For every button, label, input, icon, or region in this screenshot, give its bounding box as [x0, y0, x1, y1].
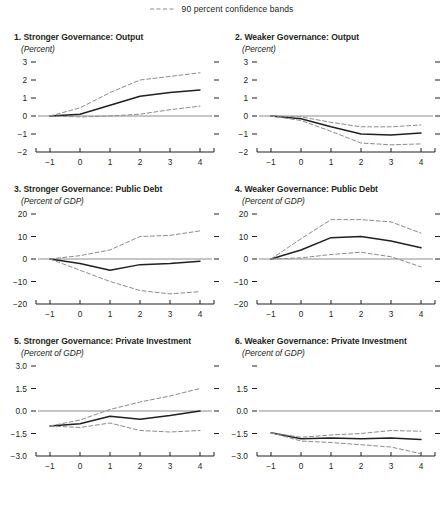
panel-title: 4. Weaker Governance: Public Debt	[235, 184, 378, 194]
y-axis-tick-label: 1	[243, 93, 248, 103]
confidence-band-line	[271, 252, 421, 267]
y-axis-tick-label: 0.0	[236, 406, 248, 416]
central-estimate-line	[50, 411, 200, 426]
x-axis-tick-label: 2	[359, 309, 364, 319]
plot-area: 3210−1−2−101234	[0, 54, 221, 174]
y-axis-tick-label: 10	[18, 232, 28, 242]
x-axis-tick-label: 0	[78, 157, 83, 167]
x-axis-tick-label: 4	[419, 461, 424, 471]
x-axis-tick-label: 4	[419, 309, 424, 319]
y-axis-tick-label: −1	[18, 129, 28, 139]
y-axis-tick-label: 20	[18, 209, 28, 219]
y-axis-tick-label: −10	[234, 277, 248, 287]
x-axis-tick-label: 1	[329, 157, 334, 167]
panel-subtitle: (Percent)	[242, 44, 276, 54]
plot-area: 3.01.50.0−1.5−3.0−101234	[0, 358, 221, 478]
panel-subtitle: (Percent of GDP)	[242, 196, 305, 206]
panel-2: 2. Weaker Governance: Output (Percent) 3…	[221, 26, 443, 178]
panel-subtitle: (Percent of GDP)	[21, 348, 84, 358]
x-axis-tick-label: 4	[419, 157, 424, 167]
panel-title: 5. Stronger Governance: Private Investme…	[14, 336, 191, 346]
x-axis-tick-label: 4	[198, 309, 203, 319]
x-axis-tick-label: 1	[108, 461, 113, 471]
y-axis-tick-label: 0	[243, 111, 248, 121]
panel-subtitle: (Percent of GDP)	[21, 196, 84, 206]
x-axis-tick-label: 0	[299, 461, 304, 471]
confidence-band-line	[50, 389, 200, 427]
panel-subtitle: (Percent)	[21, 44, 55, 54]
legend-label: 90 percent confidence bands	[182, 4, 294, 14]
y-axis-tick-label: 1.5	[15, 384, 27, 394]
panel-grid: 1. Stronger Governance: Output (Percent)…	[0, 26, 443, 496]
x-axis-tick-label: −1	[266, 157, 276, 167]
y-axis-tick-label: −1.5	[232, 429, 249, 439]
x-axis-tick-label: 4	[198, 461, 203, 471]
y-axis-tick-label: −1	[239, 129, 249, 139]
x-axis-tick-label: −1	[45, 461, 55, 471]
x-axis-tick-label: 3	[168, 461, 173, 471]
y-axis-tick-label: 10	[239, 232, 249, 242]
y-axis-tick-label: 1	[22, 93, 27, 103]
panel-1: 1. Stronger Governance: Output (Percent)…	[0, 26, 221, 178]
x-axis-tick-label: 0	[78, 461, 83, 471]
y-axis-tick-label: −20	[234, 299, 248, 309]
panel-title: 1. Stronger Governance: Output	[14, 32, 143, 42]
plot-area: 1.50.0−1.5−3.0−101234	[221, 358, 442, 478]
x-axis-tick-label: 2	[138, 157, 143, 167]
x-axis-tick-label: −1	[266, 461, 276, 471]
x-axis-tick-label: 0	[299, 309, 304, 319]
panel-subtitle: (Percent of GDP)	[242, 348, 305, 358]
x-axis-tick-label: 2	[359, 461, 364, 471]
x-axis-tick-label: −1	[266, 309, 276, 319]
y-axis-tick-label: −2	[239, 147, 249, 157]
x-axis-tick-label: 2	[138, 461, 143, 471]
confidence-band-line	[50, 259, 200, 294]
y-axis-tick-label: 3	[243, 57, 248, 67]
y-axis-tick-label: 0	[22, 111, 27, 121]
legend-dashed-line-icon	[150, 5, 176, 13]
plot-area: 3210−1−2−101234	[221, 54, 442, 174]
x-axis-tick-label: 1	[329, 461, 334, 471]
x-axis-tick-label: 1	[108, 309, 113, 319]
y-axis-tick-label: −1.5	[11, 429, 28, 439]
x-axis-tick-label: 2	[138, 309, 143, 319]
x-axis-tick-label: 3	[389, 309, 394, 319]
y-axis-tick-label: −3.0	[232, 451, 249, 461]
x-axis-tick-label: 1	[108, 157, 113, 167]
y-axis-tick-label: −20	[13, 299, 27, 309]
y-axis-tick-label: 1.5	[236, 384, 248, 394]
plot-area: 20100−10−20−101234	[0, 206, 221, 326]
panel-title: 3. Stronger Governance: Public Debt	[14, 184, 162, 194]
y-axis-tick-label: −2	[18, 147, 28, 157]
central-estimate-line	[50, 90, 200, 116]
y-axis-tick-label: −10	[13, 277, 27, 287]
panel-title: 2. Weaker Governance: Output	[235, 32, 359, 42]
x-axis-tick-label: 3	[389, 157, 394, 167]
y-axis-tick-label: 20	[239, 209, 249, 219]
x-axis-tick-label: 4	[198, 157, 203, 167]
y-axis-tick-label: 3	[22, 57, 27, 67]
y-axis-tick-label: −3.0	[11, 451, 28, 461]
x-axis-tick-label: 3	[389, 461, 394, 471]
confidence-band-line	[50, 73, 200, 116]
x-axis-tick-label: 3	[168, 157, 173, 167]
y-axis-tick-label: 2	[22, 75, 27, 85]
panel-3: 3. Stronger Governance: Public Debt (Per…	[0, 178, 221, 330]
x-axis-tick-label: 1	[329, 309, 334, 319]
x-axis-tick-label: −1	[45, 157, 55, 167]
x-axis-tick-label: −1	[45, 309, 55, 319]
central-estimate-line	[271, 116, 421, 135]
y-axis-tick-label: 2	[243, 75, 248, 85]
panel-6: 6. Weaker Governance: Private Investment…	[221, 330, 443, 496]
confidence-band-line	[50, 231, 200, 259]
y-axis-tick-label: 0.0	[15, 406, 27, 416]
central-estimate-line	[50, 259, 200, 270]
y-axis-tick-label: 0	[243, 254, 248, 264]
central-estimate-line	[271, 237, 421, 260]
y-axis-tick-label: 0	[22, 254, 27, 264]
x-axis-tick-label: 0	[78, 309, 83, 319]
chart-legend: 90 percent confidence bands	[0, 4, 443, 14]
panel-5: 5. Stronger Governance: Private Investme…	[0, 330, 221, 496]
plot-area: 20100−10−20−101234	[221, 206, 442, 326]
confidence-band-line	[271, 431, 421, 438]
